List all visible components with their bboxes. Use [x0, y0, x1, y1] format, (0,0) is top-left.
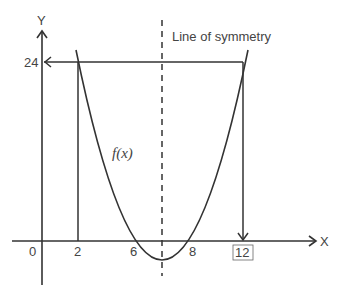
x-axis-label: X [320, 234, 329, 249]
y-tick-24: 24 [24, 55, 38, 70]
parabola-diagram: Y X 24 Line of symmetry f(x) 0 2 6 8 12 [0, 0, 340, 296]
y-axis [37, 31, 47, 285]
function-label: f(x) [112, 145, 133, 162]
x-axis [12, 236, 316, 246]
x-tick-2: 2 [74, 244, 81, 259]
symmetry-label: Line of symmetry [172, 29, 271, 44]
x-tick-12: 12 [235, 245, 249, 260]
y24-guide-line [44, 57, 243, 67]
x-tick-8: 8 [189, 244, 196, 259]
origin-label: 0 [29, 244, 36, 259]
x-tick-6: 6 [130, 244, 137, 259]
y-axis-label: Y [37, 13, 46, 28]
